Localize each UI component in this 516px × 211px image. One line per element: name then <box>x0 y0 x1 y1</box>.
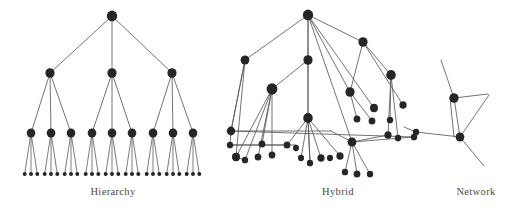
graph-edge <box>92 73 112 133</box>
graph-node <box>298 155 304 161</box>
graph-node <box>29 172 33 176</box>
graph-node <box>354 170 361 177</box>
graph-node <box>104 172 108 176</box>
graph-edge <box>363 42 391 75</box>
graph-node <box>387 117 393 124</box>
graph-edge <box>126 133 132 174</box>
graph-edge <box>272 60 308 89</box>
graph-node <box>197 172 201 176</box>
graph-node <box>136 172 140 176</box>
graph-node <box>67 128 76 137</box>
graph-edge <box>287 118 308 145</box>
graph-edge <box>245 89 272 160</box>
graph-edge <box>460 137 484 166</box>
graph-edge <box>308 118 310 163</box>
graph-node <box>96 172 100 176</box>
graph-node <box>336 152 343 160</box>
graph-node <box>128 128 137 137</box>
graph-node <box>145 172 149 176</box>
graph-node <box>177 172 181 176</box>
graph-edge <box>112 16 172 73</box>
graph-node <box>124 172 128 176</box>
graph-node <box>107 68 116 78</box>
graph-edge <box>301 118 308 158</box>
graph-node <box>242 157 248 164</box>
graph-edge <box>460 95 489 137</box>
graph-node <box>354 115 361 122</box>
graph-node <box>327 155 333 161</box>
graph-node <box>293 145 299 151</box>
graph-node <box>35 172 39 176</box>
graph-node <box>55 172 59 176</box>
graph-node <box>90 172 94 176</box>
graph-edge <box>92 133 98 174</box>
graph-edge <box>308 15 374 108</box>
graph-node <box>370 104 378 112</box>
graph-node <box>169 128 178 137</box>
graph-edge <box>50 16 112 73</box>
graph-edge <box>187 133 193 174</box>
graph-edge <box>31 73 50 133</box>
graph-node <box>23 172 27 176</box>
graph-edge <box>352 137 414 142</box>
graph-node <box>269 151 276 158</box>
graph-node <box>108 128 117 137</box>
graph-node <box>130 172 134 176</box>
graph-edge <box>153 73 172 133</box>
graph-edge <box>363 42 403 105</box>
panel-label-hybrid: Hybrid <box>300 186 376 197</box>
graph-edge <box>454 94 488 98</box>
graph-node <box>259 140 266 147</box>
graph-node <box>307 160 313 167</box>
graph-node <box>303 55 312 65</box>
graph-node <box>358 37 367 47</box>
graph-node <box>413 129 419 136</box>
graph-node <box>63 172 67 176</box>
graph-edge <box>112 133 118 174</box>
graph-edge <box>231 60 245 131</box>
graph-node <box>75 172 79 176</box>
hybrid-graph <box>227 10 417 178</box>
graph-node <box>185 172 189 176</box>
graph-node <box>189 128 198 137</box>
graph-node <box>149 128 158 137</box>
graph-node <box>255 153 262 160</box>
graph-node <box>84 172 88 176</box>
graph-node <box>165 172 169 176</box>
graph-node <box>303 113 313 123</box>
graph-edge <box>441 60 454 98</box>
graph-node <box>317 154 324 162</box>
graph-node <box>43 172 47 176</box>
graph-node <box>27 128 36 137</box>
graph-node <box>367 171 373 178</box>
graph-node <box>384 131 391 139</box>
graph-node <box>69 172 73 176</box>
graph-edge <box>31 133 37 174</box>
graph-node <box>456 132 465 141</box>
graph-node <box>167 68 176 78</box>
diagram-canvas <box>0 0 516 211</box>
graph-edge <box>172 73 173 133</box>
graph-edge <box>112 73 132 133</box>
graph-edge <box>86 133 92 174</box>
graph-node <box>157 172 161 176</box>
graph-edge <box>308 118 340 156</box>
graph-node <box>227 142 233 149</box>
graph-node <box>345 87 354 97</box>
graph-node <box>107 11 117 22</box>
graph-edge <box>350 42 363 92</box>
graph-edge <box>193 133 199 174</box>
graph-node <box>386 70 396 80</box>
graph-edge <box>391 75 398 138</box>
network-graph <box>404 60 489 166</box>
graph-node <box>241 55 250 64</box>
panel-label-network: Network <box>440 186 512 197</box>
graph-node <box>395 135 401 142</box>
graph-edge <box>50 73 71 133</box>
graph-edge <box>308 118 321 158</box>
graph-node <box>267 83 278 94</box>
graph-node <box>227 127 235 136</box>
graph-edge <box>173 133 179 174</box>
graph-edge <box>153 133 159 174</box>
graph-node <box>232 153 240 161</box>
